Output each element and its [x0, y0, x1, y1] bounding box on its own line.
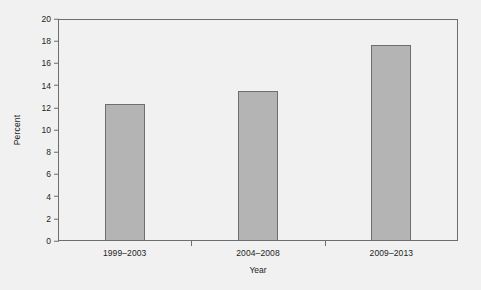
y-axis-tick-label: 0: [46, 237, 54, 246]
y-axis-tick-label: 10: [42, 126, 54, 135]
y-axis-tick-mark: [54, 241, 59, 242]
x-axis-tick-label: 2009–2013: [370, 248, 413, 258]
bar: [371, 45, 411, 241]
y-axis-tick: 14: [42, 81, 58, 90]
y-axis-tick-label: 16: [42, 59, 54, 68]
x-axis-tick-mark: [191, 241, 192, 246]
bar-chart: Percent 02468101214161820 1999–20032004–…: [0, 0, 481, 290]
x-axis-tick-label: 2004–2008: [236, 248, 279, 258]
y-axis-tick-label: 2: [46, 215, 54, 224]
y-axis-tick-mark: [54, 85, 59, 86]
x-axis-title: Year: [249, 265, 266, 275]
bar: [238, 91, 278, 241]
y-axis-tick-label: 20: [42, 15, 54, 24]
y-axis-tick: 8: [46, 148, 58, 157]
bar: [105, 104, 145, 241]
y-axis-tick: 18: [42, 37, 58, 46]
x-axis-tick-mark: [325, 241, 326, 246]
y-axis-tick-label: 4: [46, 192, 54, 201]
y-axis-tick-label: 18: [42, 37, 54, 46]
y-axis-tick-label: 14: [42, 81, 54, 90]
y-axis-tick: 6: [46, 170, 58, 179]
y-axis-tick: 10: [42, 126, 58, 135]
y-axis-tick-mark: [54, 19, 59, 20]
y-axis-tick-mark: [54, 152, 59, 153]
y-axis-tick: 12: [42, 104, 58, 113]
plot-area: 02468101214161820: [58, 19, 458, 241]
y-axis-tick: 20: [42, 15, 58, 24]
y-axis-tick-mark: [54, 196, 59, 197]
y-axis-tick: 2: [46, 215, 58, 224]
y-axis-tick-label: 6: [46, 170, 54, 179]
y-axis-tick: 16: [42, 59, 58, 68]
y-axis-tick-mark: [54, 174, 59, 175]
y-axis-tick-label: 12: [42, 104, 54, 113]
x-axis-tick-label: 1999–2003: [103, 248, 146, 258]
y-axis-tick-label: 8: [46, 148, 54, 157]
y-axis-tick-mark: [54, 107, 59, 108]
y-axis-tick: 4: [46, 192, 58, 201]
y-axis-tick: 0: [46, 237, 58, 246]
y-axis-tick-mark: [54, 130, 59, 131]
y-axis-tick-mark: [54, 41, 59, 42]
y-axis-tick-mark: [54, 63, 59, 64]
y-axis-tick-mark: [54, 218, 59, 219]
y-axis-title: Percent: [12, 115, 22, 146]
